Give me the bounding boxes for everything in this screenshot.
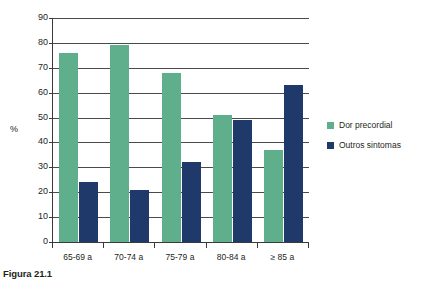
y-axis-tick-labels: 9080706050403020100 bbox=[22, 0, 48, 283]
plot-area bbox=[52, 18, 309, 243]
x-axis-tick-mark bbox=[52, 242, 53, 248]
y-axis-tick-label: 80 bbox=[24, 38, 48, 47]
x-axis: 65-69 a70-74 a75-79 a80-84 a≥ 85 a bbox=[52, 242, 310, 272]
bar bbox=[130, 190, 149, 242]
x-axis-tick-label: ≥ 85 a bbox=[257, 252, 308, 262]
bar bbox=[233, 120, 252, 242]
y-axis-tick-label: 10 bbox=[24, 212, 48, 221]
y-axis-title: % bbox=[6, 124, 22, 134]
bar bbox=[59, 53, 78, 242]
y-axis-tick-label: 60 bbox=[24, 88, 48, 97]
x-axis-tick-mark bbox=[154, 242, 155, 248]
x-axis-tick-mark bbox=[308, 242, 309, 248]
y-axis-tick-label: 90 bbox=[24, 13, 48, 22]
bar-group bbox=[59, 18, 98, 242]
chart-legend: Dor precordialOutros sintomas bbox=[327, 115, 419, 155]
bar-group bbox=[213, 18, 252, 242]
y-axis-tick-label: 50 bbox=[24, 113, 48, 122]
bar bbox=[264, 150, 283, 242]
bar bbox=[284, 85, 303, 242]
x-axis-tick-label: 75-79 a bbox=[154, 252, 205, 262]
legend-label: Outros sintomas bbox=[339, 140, 401, 150]
y-axis-tick-label: 40 bbox=[24, 137, 48, 146]
x-axis-tick-label: 70-74 a bbox=[103, 252, 154, 262]
legend-swatch-icon bbox=[327, 122, 334, 129]
y-axis-tick-label: 0 bbox=[24, 237, 48, 246]
y-axis-tick-label: 70 bbox=[24, 63, 48, 72]
figure-container: % 9080706050403020100 65-69 a70-74 a75-7… bbox=[0, 0, 421, 283]
x-axis-tick-mark bbox=[257, 242, 258, 248]
bar bbox=[79, 182, 98, 242]
legend-entry[interactable]: Outros sintomas bbox=[327, 135, 419, 155]
bar bbox=[110, 45, 129, 242]
bars-layer bbox=[53, 18, 309, 242]
x-axis-tick-label: 65-69 a bbox=[52, 252, 103, 262]
bar-group bbox=[110, 18, 149, 242]
figure-caption: Figura 21.1 bbox=[3, 268, 52, 279]
bar bbox=[162, 73, 181, 242]
x-axis-tick-mark bbox=[206, 242, 207, 248]
legend-label: Dor precordial bbox=[339, 120, 392, 130]
bar bbox=[182, 162, 201, 242]
x-axis-tick-mark bbox=[103, 242, 104, 248]
bar-group bbox=[162, 18, 201, 242]
legend-swatch-icon bbox=[327, 142, 334, 149]
bar-group bbox=[264, 18, 303, 242]
y-axis-tick-label: 20 bbox=[24, 187, 48, 196]
bar bbox=[213, 115, 232, 242]
legend-entry[interactable]: Dor precordial bbox=[327, 115, 419, 135]
y-axis-tick-label: 30 bbox=[24, 162, 48, 171]
x-axis-tick-label: 80-84 a bbox=[206, 252, 257, 262]
